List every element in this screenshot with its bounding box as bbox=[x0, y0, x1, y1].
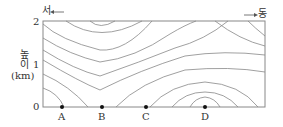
plot-frame bbox=[43, 21, 265, 107]
point-a-label: A bbox=[58, 112, 65, 122]
y-tick-1: 1 bbox=[33, 60, 39, 70]
contour-diagram bbox=[0, 0, 283, 127]
contour-lines bbox=[43, 21, 265, 107]
point-c-label: C bbox=[142, 112, 150, 122]
east-label: 동 bbox=[258, 9, 267, 19]
point-c-marker bbox=[144, 105, 148, 109]
point-d-marker bbox=[203, 105, 207, 109]
y-tick-2: 2 bbox=[33, 17, 39, 27]
y-axis-label-line2: 이 bbox=[20, 60, 29, 70]
point-d-label: D bbox=[201, 112, 209, 122]
point-b-label: B bbox=[98, 112, 105, 122]
y-tick-0: 0 bbox=[33, 102, 39, 112]
west-label: 서 bbox=[42, 6, 51, 16]
point-b-marker bbox=[100, 105, 104, 109]
point-a-marker bbox=[60, 105, 64, 109]
y-axis-unit: (km) bbox=[11, 71, 34, 81]
